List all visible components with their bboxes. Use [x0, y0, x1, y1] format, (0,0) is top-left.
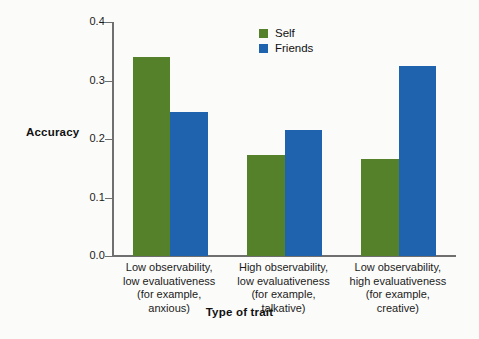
bar-chart-figure: 0.00.10.20.30.4 Accuracy Low observabili…: [0, 0, 479, 339]
legend-label-self: Self: [275, 27, 295, 39]
y-tick-mark: [105, 139, 112, 140]
y-tick-label: 0.0: [79, 249, 105, 261]
y-tick-mark: [105, 81, 112, 82]
legend: Self Friends: [259, 26, 349, 56]
plot-area: [112, 22, 455, 256]
legend-item-friends[interactable]: Friends: [259, 41, 349, 55]
bar-self-group-3[interactable]: [361, 159, 399, 256]
legend-label-friends: Friends: [275, 42, 313, 54]
y-tick-label: 0.3: [79, 74, 105, 86]
y-tick-label: 0.1: [79, 191, 105, 203]
y-tick-label: 0.4: [79, 15, 105, 27]
y-tick-label-wrap: 0.4: [64, 15, 105, 27]
bar-friends-group-1[interactable]: [170, 112, 208, 256]
y-tick-label-wrap: 0.1: [64, 191, 105, 203]
legend-item-self[interactable]: Self: [259, 26, 349, 40]
y-tick-mark: [105, 256, 112, 257]
y-tick-mark: [105, 198, 112, 199]
bar-friends-group-2[interactable]: [285, 130, 323, 256]
x-axis-title: Type of trait: [0, 306, 479, 318]
bar-self-group-1[interactable]: [133, 57, 171, 256]
y-tick-mark: [105, 22, 112, 23]
y-axis-title: Accuracy: [26, 126, 79, 138]
legend-swatch-friends-icon: [259, 44, 268, 53]
bar-self-group-2[interactable]: [247, 155, 285, 256]
legend-swatch-self-icon: [259, 29, 268, 38]
y-tick-label: 0.2: [79, 132, 105, 144]
bar-friends-group-3[interactable]: [399, 66, 437, 256]
x-category-label-line: Low observability,: [328, 261, 468, 275]
x-category-label-line: high evaluativeness: [328, 275, 468, 289]
x-category-label-line: (for example,: [328, 288, 468, 302]
y-tick-label-wrap: 0.0: [64, 249, 105, 261]
y-tick-label-wrap: 0.3: [64, 74, 105, 86]
